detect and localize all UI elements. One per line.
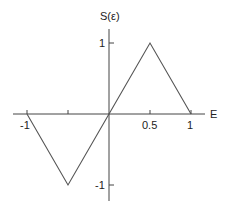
x-tick-label-neg1: -1 — [20, 119, 30, 131]
y-tick-label-1: 1 — [99, 37, 105, 49]
x-tick-label-1: 1 — [187, 119, 193, 131]
y-tick-label-neg1: -1 — [95, 179, 105, 191]
x-axis-label: E — [210, 108, 217, 120]
y-axis-label: S(ε) — [100, 10, 120, 22]
x-tick-label-05: 0.5 — [142, 119, 157, 131]
chart: S(ε) E -1 0.5 1 1 -1 — [0, 0, 228, 209]
